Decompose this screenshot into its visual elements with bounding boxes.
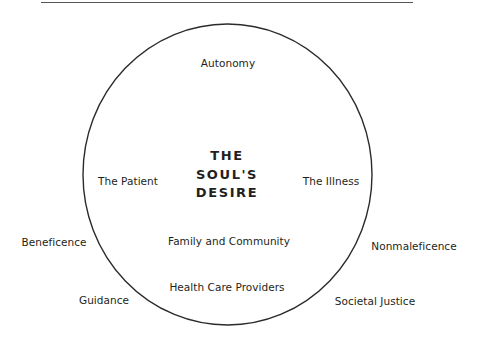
label-societal-justice: Societal Justice bbox=[335, 296, 415, 307]
center-title: THE SOUL'S DESIRE bbox=[196, 147, 258, 203]
center-title-line-3: DESIRE bbox=[196, 184, 258, 203]
label-family-and-community: Family and Community bbox=[168, 236, 290, 247]
label-autonomy: Autonomy bbox=[201, 58, 255, 69]
label-nonmaleficence: Nonmaleficence bbox=[371, 241, 456, 252]
center-title-line-1: THE bbox=[196, 147, 258, 166]
label-the-patient: The Patient bbox=[98, 176, 158, 187]
label-beneficence: Beneficence bbox=[21, 237, 86, 248]
center-title-line-2: SOUL'S bbox=[196, 166, 258, 185]
label-guidance: Guidance bbox=[79, 295, 129, 306]
label-the-illness: The Illness bbox=[303, 176, 359, 187]
label-health-care-providers: Health Care Providers bbox=[169, 282, 284, 293]
